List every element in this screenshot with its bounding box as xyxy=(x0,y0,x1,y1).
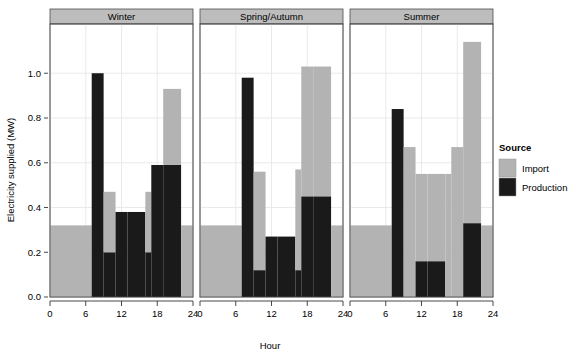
bar-segment-production xyxy=(277,237,295,297)
bar-segment-import xyxy=(50,225,92,297)
x-tick-label: 18 xyxy=(302,308,313,319)
bar-segment-production xyxy=(313,196,331,297)
x-tick-label: 12 xyxy=(116,308,127,319)
panels-group: WinterSpring/AutumnSummer xyxy=(50,9,493,297)
bar-segment-production xyxy=(254,270,266,297)
bar-segment-import xyxy=(301,67,313,197)
x-tick-label: 6 xyxy=(83,308,88,319)
bar-segment-production xyxy=(295,270,301,297)
x-tick-label: 6 xyxy=(233,308,238,319)
x-tick-label: 12 xyxy=(266,308,277,319)
x-tick-label: 18 xyxy=(452,308,463,319)
legend-label-production[interactable]: Production xyxy=(522,182,567,193)
bar-segment-production xyxy=(301,196,313,297)
bar-segment-production xyxy=(145,252,151,297)
bar-segment-import xyxy=(331,225,343,297)
panel-strip-label: Summer xyxy=(404,11,440,22)
y-axis-title: Electricity supplied (MW) xyxy=(5,118,16,223)
chart-container: 0.00.20.40.60.81.0 WinterSpring/AutumnSu… xyxy=(0,0,581,357)
x-tick-label: 18 xyxy=(152,308,163,319)
bar-segment-production xyxy=(92,73,104,297)
bar-segment-production xyxy=(151,165,163,297)
x-tick-label: 0 xyxy=(347,308,352,319)
bar-segment-import xyxy=(416,174,428,261)
bar-segment-production xyxy=(392,109,404,297)
y-tick-label: 1.0 xyxy=(28,68,41,79)
bar-segment-import xyxy=(295,169,301,270)
y-tick-label: 0.8 xyxy=(28,112,41,123)
bar-segment-production xyxy=(242,78,254,297)
bar-segment-import xyxy=(200,225,242,297)
bar-segment-production xyxy=(416,261,428,297)
bar-segment-production xyxy=(163,165,181,297)
faceted-bar-chart: 0.00.20.40.60.81.0 WinterSpring/AutumnSu… xyxy=(0,0,581,357)
bar-segment-import xyxy=(181,225,193,297)
bar-segment-import xyxy=(145,192,151,252)
x-axis-title: Hour xyxy=(260,340,281,351)
y-tick-label: 0.2 xyxy=(28,247,41,258)
bar-segment-import xyxy=(254,172,266,270)
y-tick-label: 0.6 xyxy=(28,157,41,168)
bar-segment-import xyxy=(451,147,463,297)
bar-segment-import xyxy=(104,192,116,252)
x-tick-label: 0 xyxy=(47,308,52,319)
bar-segment-production xyxy=(127,212,145,297)
bar-segment-import xyxy=(163,89,181,165)
bar-segment-import xyxy=(463,42,481,223)
legend-title: Source xyxy=(499,142,531,153)
legend-swatch-import[interactable] xyxy=(499,159,516,177)
bar-segment-production xyxy=(427,261,445,297)
bar-segment-production xyxy=(266,237,278,297)
bar-segment-production xyxy=(104,252,116,297)
panel-strip-label: Winter xyxy=(108,11,135,22)
bar-segment-import xyxy=(404,147,416,297)
legend-label-import[interactable]: Import xyxy=(522,163,549,174)
bar-segment-import xyxy=(427,174,445,261)
bar-segment-import xyxy=(481,225,493,297)
x-tick-label: 6 xyxy=(383,308,388,319)
y-tick-label: 0.4 xyxy=(28,202,41,213)
x-tick-label: 0 xyxy=(197,308,202,319)
y-tick-label: 0.0 xyxy=(28,291,41,302)
bar-segment-import xyxy=(350,225,392,297)
bar-segment-production xyxy=(116,212,128,297)
bar-segment-import xyxy=(445,174,451,297)
panel-strip-label: Spring/Autumn xyxy=(240,11,303,22)
x-tick-label: 12 xyxy=(416,308,427,319)
bar-segment-production xyxy=(463,223,481,297)
legend-swatch-production[interactable] xyxy=(499,178,516,196)
bar-segment-import xyxy=(313,67,331,197)
x-tick-label: 24 xyxy=(488,308,499,319)
